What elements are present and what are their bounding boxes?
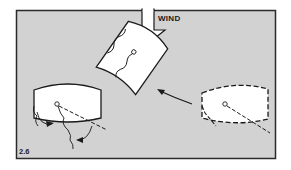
diagram-figure bbox=[0, 0, 291, 170]
wind-label: WIND bbox=[158, 14, 181, 23]
figure-number: 2.6 bbox=[19, 147, 29, 156]
